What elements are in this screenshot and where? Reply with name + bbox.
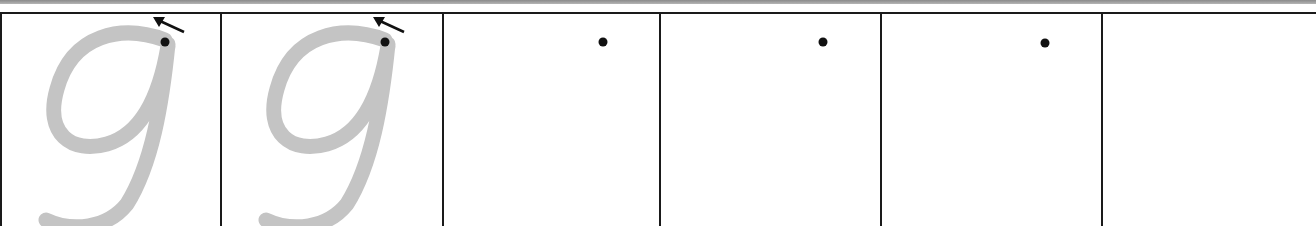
practice-cell-1 — [0, 14, 220, 226]
practice-cell-6[interactable] — [1101, 14, 1316, 226]
start-dot-icon — [2, 14, 222, 226]
practice-cell-2 — [220, 14, 442, 226]
start-dot-icon — [444, 14, 661, 226]
letter-practice-row — [0, 12, 1316, 226]
practice-cell-4[interactable] — [659, 14, 880, 226]
start-dot-icon — [661, 14, 882, 226]
practice-cell-5[interactable] — [880, 14, 1101, 226]
practice-cell-3[interactable] — [442, 14, 659, 226]
start-dot-icon — [882, 14, 1103, 226]
start-dot-icon — [222, 14, 444, 226]
top-band — [0, 0, 1316, 4]
